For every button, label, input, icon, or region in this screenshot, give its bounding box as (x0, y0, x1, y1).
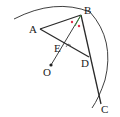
angle-mark-1 (71, 21, 73, 23)
label-d: D (81, 57, 89, 69)
label-b: B (84, 4, 91, 16)
label-e: E (54, 42, 61, 54)
segment-ab (40, 15, 81, 29)
label-a: A (29, 23, 37, 35)
label-c: C (101, 103, 108, 115)
geometry-diagram: B A E D O C (0, 0, 120, 117)
label-o: O (43, 66, 51, 78)
angle-mark-2 (78, 25, 80, 27)
